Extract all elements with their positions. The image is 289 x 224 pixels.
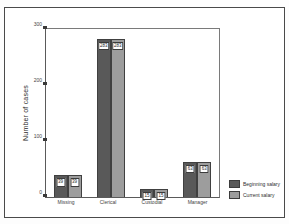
- legend-item: Current salary: [229, 191, 289, 199]
- bar: 39: [68, 175, 82, 197]
- bar-group: 3939: [54, 29, 82, 197]
- bar-value-label: 283: [112, 42, 124, 51]
- y-tick-label: 300: [34, 22, 42, 27]
- bar-group: 283283: [97, 29, 125, 197]
- legend-label: Current salary: [243, 193, 274, 198]
- top-cutoff-text: [0, 0, 289, 6]
- legend-swatch: [229, 180, 240, 188]
- y-tick-label: 0: [39, 190, 42, 195]
- y-axis-title: Number of cases: [19, 28, 31, 198]
- x-axis-label: Missing: [58, 199, 75, 205]
- plot-area: 0100200300 393928328315156363: [45, 28, 220, 198]
- bar: 15: [154, 189, 168, 197]
- bar-group: 1515: [140, 29, 168, 197]
- x-axis-label: Manager: [188, 199, 208, 205]
- bar: 63: [197, 162, 211, 197]
- bar-value-label: 39: [70, 178, 79, 187]
- bar: 63: [183, 162, 197, 197]
- bar-value-label: 63: [200, 165, 209, 174]
- x-axis-label: Clerical: [100, 199, 117, 205]
- bar: 15: [140, 189, 154, 197]
- chart-figure: Number of cases 0100200300 3939283283151…: [0, 0, 289, 224]
- y-tick-label: 200: [34, 78, 42, 83]
- legend-item: Beginning salary: [229, 180, 289, 188]
- legend-label: Beginning salary: [243, 182, 280, 187]
- x-axis-label: Custodial: [142, 199, 163, 205]
- bar-group: 6363: [183, 29, 211, 197]
- bar-value-label: 283: [98, 42, 110, 51]
- bar-groups: 393928328315156363: [46, 29, 219, 197]
- y-tick-label: 100: [34, 134, 42, 139]
- figure-border: Number of cases 0100200300 3939283283151…: [4, 7, 285, 218]
- chart-legend: Beginning salaryCurrent salary: [229, 180, 289, 202]
- bar: 283: [97, 39, 111, 197]
- bar-value-label: 39: [56, 178, 65, 187]
- bar: 283: [111, 39, 125, 197]
- legend-swatch: [229, 191, 240, 199]
- bar-value-label: 63: [186, 165, 195, 174]
- x-axis-labels: MissingClericalCustodialManager: [45, 199, 220, 211]
- bar: 39: [54, 175, 68, 197]
